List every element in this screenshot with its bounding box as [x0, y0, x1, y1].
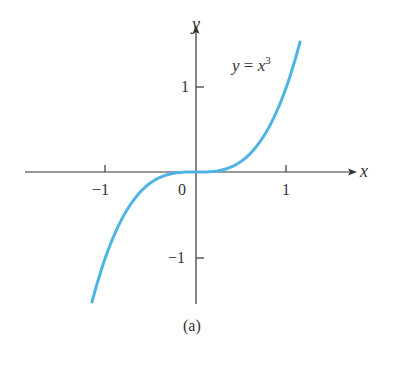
x-axis-label: x: [360, 163, 368, 179]
function-label-equals: =: [240, 56, 258, 75]
cubic-function-plot: [0, 0, 393, 370]
x-tick-label-neg1: −1: [92, 182, 109, 198]
figure-caption: (a): [183, 318, 201, 334]
y-tick-label-neg1: −1: [168, 250, 185, 266]
function-label-y: y: [232, 56, 240, 75]
function-label: y = x3: [232, 52, 271, 74]
y-axis-label: y: [192, 16, 200, 32]
x-tick-label-0: 0: [178, 182, 186, 198]
x-tick-label-1: 1: [282, 182, 290, 198]
function-label-exponent: 3: [265, 54, 271, 66]
y-tick-label-1: 1: [181, 79, 189, 95]
